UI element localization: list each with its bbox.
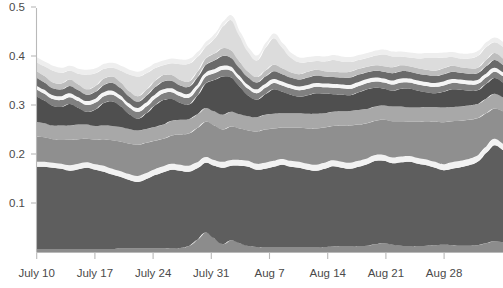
x-tick-label: Aug 7: [254, 267, 284, 279]
y-tick-label: 0.5: [9, 1, 25, 13]
y-tick-label: 0.4: [9, 50, 26, 62]
y-tick-label: 0.2: [9, 148, 25, 160]
x-tick-label: Aug 21: [368, 267, 404, 279]
stacked-area-series-group: [36, 15, 503, 252]
x-tick-label: July 31: [193, 267, 229, 279]
x-tick-label: July 10: [18, 267, 54, 279]
x-tick-label: Aug 28: [426, 267, 462, 279]
x-axis-ticks: [37, 253, 444, 259]
y-axis-ticks: [31, 7, 36, 203]
x-tick-label: Aug 14: [309, 267, 346, 279]
x-axis-tick-labels: July 10July 17July 24July 31Aug 7Aug 14A…: [18, 267, 462, 279]
stacked-area-chart: 0.10.20.30.40.5 July 10July 17July 24Jul…: [0, 0, 503, 288]
x-tick-label: July 17: [77, 267, 113, 279]
chart-plot-area: 0.10.20.30.40.5 July 10July 17July 24Jul…: [0, 0, 503, 288]
x-tick-label: July 24: [135, 267, 172, 279]
y-tick-label: 0.1: [9, 197, 25, 209]
y-tick-label: 0.3: [9, 99, 25, 111]
y-axis-tick-labels: 0.10.20.30.40.5: [9, 1, 26, 209]
